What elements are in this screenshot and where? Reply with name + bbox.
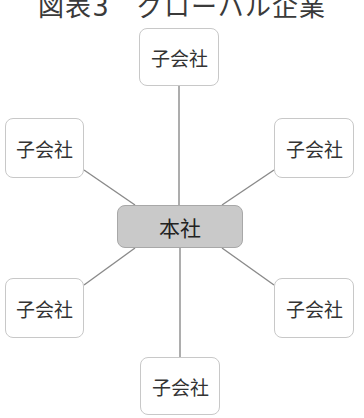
subsidiary-node-lower-left: 子会社 <box>5 278 84 338</box>
link-lower-right <box>222 248 274 285</box>
headquarters-node: 本社 <box>117 205 243 248</box>
link-upper-left <box>84 170 135 205</box>
subsidiary-label: 子会社 <box>286 295 343 322</box>
subsidiary-node-top: 子会社 <box>139 28 219 86</box>
subsidiary-label: 子会社 <box>152 373 209 400</box>
link-lower-left <box>84 248 135 285</box>
subsidiary-node-upper-right: 子会社 <box>274 118 354 178</box>
headquarters-label: 本社 <box>159 212 201 242</box>
subsidiary-node-lower-right: 子会社 <box>274 278 354 338</box>
subsidiary-label: 子会社 <box>16 295 73 322</box>
subsidiary-node-upper-left: 子会社 <box>5 118 84 178</box>
subsidiary-node-bottom: 子会社 <box>140 357 220 415</box>
subsidiary-label: 子会社 <box>16 135 73 162</box>
subsidiary-label: 子会社 <box>151 44 208 71</box>
subsidiary-label: 子会社 <box>286 135 343 162</box>
link-upper-right <box>222 170 274 205</box>
